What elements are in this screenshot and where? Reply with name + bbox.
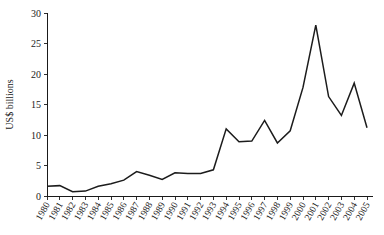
y-axis-tick-label: 5 xyxy=(36,160,41,171)
y-axis-tick-label: 30 xyxy=(31,8,41,19)
line-chart-plot: 051015202530 198019811982198319841985198… xyxy=(0,0,384,235)
y-axis-tick-label: 0 xyxy=(36,191,41,202)
y-axis-tick-label: 10 xyxy=(31,130,41,141)
x-axis: 1980198119821983198419851986198719881989… xyxy=(34,196,373,222)
y-axis-tick-label: 25 xyxy=(31,38,41,49)
chart-container: 051015202530 198019811982198319841985198… xyxy=(0,0,384,235)
y-axis: 051015202530 xyxy=(31,8,47,202)
y-axis-tick-label: 20 xyxy=(31,69,41,80)
y-axis-title: US$ billions xyxy=(4,79,15,129)
y-axis-title-label: US$ billions xyxy=(4,79,15,129)
data-series-group xyxy=(47,25,367,192)
data-series-line xyxy=(47,25,367,192)
x-axis-tick-label: 2005 xyxy=(354,200,372,222)
y-axis-tick-label: 15 xyxy=(31,99,41,110)
